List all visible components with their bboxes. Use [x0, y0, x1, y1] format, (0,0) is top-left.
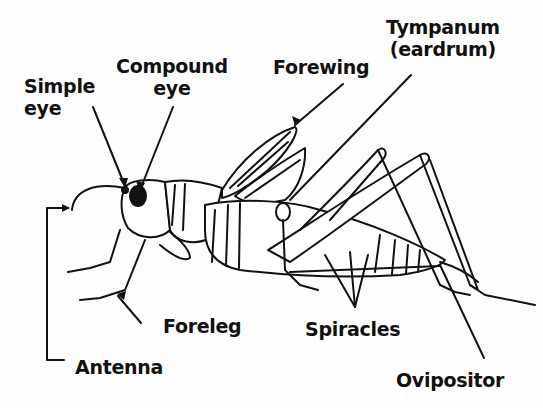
pointer-foreleg	[118, 296, 141, 323]
antenna-line	[72, 186, 125, 210]
pointer-simple-eye	[93, 107, 125, 186]
diagram-canvas: Simple eye Compound eye Forewing Tympanu…	[0, 0, 543, 408]
head-outline	[122, 180, 170, 237]
label-compound-eye-line1: Compound	[116, 55, 228, 77]
foreleg-tibia	[80, 240, 145, 300]
label-foreleg: Foreleg	[163, 315, 241, 337]
label-forewing: Forewing	[273, 56, 369, 78]
label-foreleg-line1: Foreleg	[163, 315, 241, 337]
label-ovipositor-line1: Ovipositor	[396, 369, 504, 391]
label-antenna-line1: Antenna	[75, 356, 163, 378]
foreleg-2	[68, 230, 120, 272]
label-compound-eye: Compound eye	[116, 55, 228, 99]
label-antenna: Antenna	[75, 356, 163, 378]
pointer-ovipositor	[440, 265, 484, 358]
hind-tarsus	[470, 285, 535, 305]
label-simple-eye-line2: eye	[24, 97, 95, 119]
pointer-antenna-bracket	[47, 208, 68, 360]
grasshopper-illustration	[0, 0, 543, 408]
label-ovipositor: Ovipositor	[396, 369, 504, 391]
label-simple-eye-line1: Simple	[24, 75, 95, 97]
label-simple-eye: Simple eye	[24, 75, 95, 119]
pointer-forewing	[295, 84, 343, 125]
pointer-compound-eye	[140, 107, 173, 190]
label-forewing-line1: Forewing	[273, 56, 369, 78]
label-spiracles: Spiracles	[305, 318, 400, 340]
label-tympanum-line2: (eardrum)	[386, 38, 500, 60]
compound-eye-shape	[130, 186, 146, 206]
label-tympanum-line1: Tympanum	[386, 16, 500, 38]
label-spiracles-line1: Spiracles	[305, 318, 400, 340]
label-compound-eye-line2: eye	[116, 77, 228, 99]
label-tympanum: Tympanum (eardrum)	[386, 16, 500, 60]
